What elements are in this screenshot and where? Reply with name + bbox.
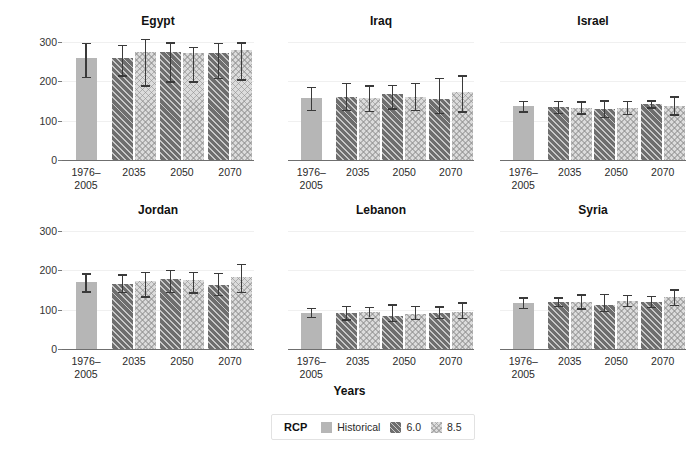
error-bar [122, 45, 123, 76]
x-tick-label: 2070 [428, 355, 475, 368]
error-bar [439, 306, 440, 317]
x-tick-label: 2050 [593, 166, 640, 179]
error-bar-cap-upper [554, 297, 563, 298]
panel-jordan: Jordan01002003001976–2005203520502070 [62, 203, 254, 389]
panel-title-egypt: Egypt [62, 14, 254, 28]
error-bar-cap-lower [214, 78, 223, 79]
error-bar-cap-lower [554, 306, 563, 307]
error-bar [558, 101, 559, 113]
error-bar [392, 85, 393, 109]
y-tick-label-100: 100 [17, 304, 57, 316]
error-bar [415, 306, 416, 319]
error-bar [523, 297, 524, 307]
legend-swatch-rcp60-icon [390, 422, 401, 433]
legend-item-historical[interactable]: Historical [321, 421, 380, 433]
error-bar [581, 294, 582, 308]
legend-title: RCP [284, 421, 307, 433]
error-bar-cap-lower [342, 319, 351, 320]
error-bar [581, 101, 582, 113]
error-bar [392, 304, 393, 321]
error-bar [218, 43, 219, 78]
error-bar [674, 289, 675, 305]
y-tick-label-200: 200 [17, 75, 57, 87]
error-bar-cap-upper [189, 272, 198, 273]
bar [548, 107, 569, 160]
error-bar-cap-lower [166, 81, 175, 82]
gridline-200 [62, 270, 254, 271]
gridline-300 [288, 231, 474, 232]
bar [548, 302, 569, 349]
legend-label-rcp60: 6.0 [406, 421, 421, 433]
error-bar [369, 85, 370, 111]
error-bar-cap-lower [82, 77, 91, 78]
bar [571, 108, 592, 160]
error-bar [415, 83, 416, 110]
error-bar-cap-upper [214, 43, 223, 44]
error-bar-cap-lower [623, 306, 632, 307]
error-bar-cap-lower [307, 317, 316, 318]
panel-iraq: Iraq1976–2005203520502070 [288, 14, 474, 200]
panel-title-syria: Syria [500, 203, 686, 217]
error-bar-cap-lower [214, 295, 223, 296]
y-tick-label-300: 300 [17, 225, 57, 237]
error-bar-cap-upper [577, 101, 586, 102]
x-tick-label: 2035 [547, 166, 594, 179]
gridline-300 [500, 231, 686, 232]
error-bar-cap-upper [307, 87, 316, 88]
panel-syria: Syria1976–2005203520502070 [500, 203, 686, 389]
error-bar-cap-upper [166, 42, 175, 43]
error-bar-cap-upper [342, 306, 351, 307]
error-bar-cap-upper [411, 83, 420, 84]
error-bar-cap-upper [342, 83, 351, 84]
chart-legend: RCP Historical 6.0 8.5 [271, 414, 475, 440]
error-bar-cap-upper [141, 272, 150, 273]
plot-area-lebanon: 1976–2005203520502070 [288, 223, 474, 349]
error-bar-cap-lower [519, 111, 528, 112]
gridline-200 [288, 270, 474, 271]
gridline-200 [288, 81, 474, 82]
plot-area-israel: 1976–2005203520502070 [500, 34, 686, 160]
error-bar-cap-lower [388, 108, 397, 109]
x-axis-title: Years [0, 384, 699, 398]
x-tick-label: 1976–2005 [288, 355, 335, 380]
y-tick-label-300: 300 [17, 36, 57, 48]
legend-item-rcp85[interactable]: 8.5 [431, 421, 462, 433]
error-bar [604, 294, 605, 311]
legend-label-rcp85: 8.5 [447, 421, 462, 433]
error-bar [170, 270, 171, 292]
error-bar-cap-lower [411, 319, 420, 320]
gridline-200 [500, 270, 686, 271]
legend-item-rcp60[interactable]: 6.0 [390, 421, 421, 433]
bar [617, 108, 638, 160]
error-bar [311, 87, 312, 110]
error-bar-cap-lower [411, 110, 420, 111]
error-bar [369, 307, 370, 318]
error-bar [85, 43, 86, 76]
x-axis-line [288, 160, 474, 161]
error-bar-cap-upper [670, 289, 679, 290]
error-bar [85, 273, 86, 291]
error-bar-cap-upper [458, 75, 467, 76]
error-bar [145, 39, 146, 85]
error-bar [241, 42, 242, 79]
error-bar-cap-upper [388, 85, 397, 86]
error-bar [346, 83, 347, 110]
y-tick-label-100: 100 [17, 115, 57, 127]
error-bar-cap-lower [670, 114, 679, 115]
bar [112, 284, 133, 349]
x-tick-label: 2070 [640, 355, 687, 368]
error-bar-cap-lower [647, 107, 656, 108]
error-bar-cap-upper [388, 304, 397, 305]
error-bar [462, 302, 463, 318]
bar [617, 301, 638, 349]
error-bar-cap-upper [435, 78, 444, 79]
error-bar-cap-lower [166, 292, 175, 293]
x-tick-label: 2035 [335, 166, 382, 179]
error-bar-cap-lower [600, 117, 609, 118]
error-bar [604, 100, 605, 117]
error-bar [439, 78, 440, 113]
error-bar [523, 101, 524, 112]
plot-area-jordan: 01002003001976–2005203520502070 [62, 223, 254, 349]
error-bar-cap-lower [237, 292, 246, 293]
figure-root: Consecutive days without precipitation E… [0, 0, 699, 467]
